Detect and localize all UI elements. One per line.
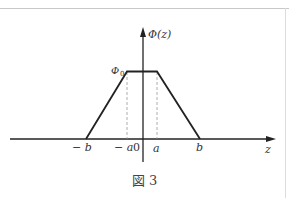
tick-label-neg-a: − a	[114, 141, 133, 154]
plateau-subscript: 0	[120, 70, 124, 78]
x-axis-label: z	[264, 143, 271, 156]
y-axis-arrow-icon	[140, 27, 146, 37]
tick-label-b: b	[196, 141, 203, 154]
tick-label-zero: 0	[133, 141, 140, 154]
x-axis-arrow-icon	[266, 136, 276, 142]
tick-label-a: a	[153, 142, 160, 155]
tick-label-neg-b: − b	[72, 141, 92, 154]
trapezoid-diagram: Φ(z) Φ 0 − b − a 0 a b z	[0, 0, 289, 198]
y-axis-label: Φ(z)	[148, 28, 171, 41]
figure-caption: 図 3	[0, 170, 289, 189]
figure-frame: Φ(z) Φ 0 − b − a 0 a b z 図 3	[0, 0, 289, 198]
plateau-label: Φ	[111, 65, 119, 76]
